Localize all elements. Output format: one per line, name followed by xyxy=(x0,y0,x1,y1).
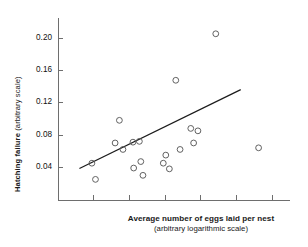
data-point xyxy=(213,31,219,37)
x-axis-title: Average number of eggs laid per nest xyxy=(96,214,306,223)
axes-group xyxy=(58,18,290,200)
trend-line xyxy=(79,90,240,169)
data-point xyxy=(195,128,201,134)
axis-ticks-group xyxy=(58,38,272,200)
data-point xyxy=(188,126,194,132)
data-point xyxy=(116,117,122,123)
data-point xyxy=(93,176,99,182)
data-point xyxy=(140,172,146,178)
data-point xyxy=(163,152,169,158)
plot-canvas xyxy=(0,0,308,247)
data-point xyxy=(112,140,118,146)
chart-figure: Hatching failure (arbitrary scale) 0.040… xyxy=(0,0,308,247)
data-point xyxy=(173,77,179,83)
data-points-group xyxy=(89,31,261,182)
x-axis-title-sub: (arbitrary logarithmic scale) xyxy=(96,224,306,234)
x-axis-title-block: Average number of eggs laid per nest (ar… xyxy=(96,214,306,234)
data-point xyxy=(191,140,197,146)
data-point xyxy=(138,159,144,165)
data-point xyxy=(131,165,137,171)
data-point xyxy=(160,160,166,166)
data-point xyxy=(256,145,262,151)
data-point xyxy=(177,147,183,153)
data-point xyxy=(166,166,172,172)
trend-line-group xyxy=(79,90,240,169)
